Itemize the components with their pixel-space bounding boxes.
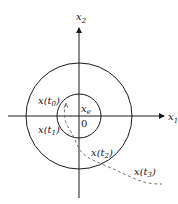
x1-axis-label: x1 [168,111,178,125]
x2-axis-label: x2 [76,11,87,25]
point-label-t2: x(t2) [91,147,113,160]
stability-diagram: x2 x1 xe 0 x(t0) x(t1) x(t2) x(t3) [0,0,178,204]
equilibrium-label: xe [81,103,91,116]
point-label-t1: x(t1) [38,124,60,137]
point-label-t0: x(t0) [38,95,60,108]
point-label-t3: x(t3) [134,166,156,179]
origin-label: 0 [81,118,87,129]
trajectory-start-arrow-icon [64,103,68,108]
